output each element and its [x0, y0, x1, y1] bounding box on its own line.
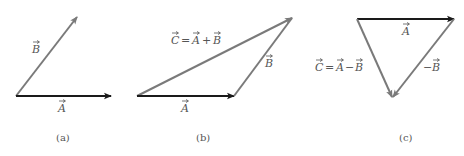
caption-c: (c)	[399, 132, 413, 143]
label-a-B: B	[31, 41, 40, 57]
svg-text:A: A	[180, 102, 189, 115]
svg-text:−: −	[345, 61, 354, 74]
label-a-A: A	[57, 100, 66, 116]
label-b-A: A	[180, 100, 189, 116]
panel-a: B A (a)	[16, 17, 111, 143]
svg-text:A: A	[335, 61, 344, 74]
svg-text:A: A	[57, 102, 66, 115]
diagram-svg: B A (a) C = A +	[0, 0, 464, 156]
svg-text:B: B	[264, 57, 273, 70]
svg-text:B: B	[354, 61, 363, 74]
vector-diagram: B A (a) C = A +	[0, 0, 464, 156]
label-b-B: B	[264, 55, 273, 71]
label-b-equation: C = A + B	[171, 32, 221, 48]
svg-text:+: +	[202, 34, 211, 47]
vector-c-C	[357, 19, 392, 97]
label-c-equation: C = A − B	[315, 59, 363, 75]
vector-b-B	[234, 18, 292, 96]
label-c-negB: − B	[423, 59, 440, 75]
label-c-A: A	[401, 23, 410, 39]
svg-text:A: A	[401, 25, 410, 38]
caption-a: (a)	[56, 132, 70, 143]
svg-text:A: A	[191, 34, 200, 47]
svg-text:=: =	[181, 34, 190, 47]
caption-b: (b)	[196, 132, 210, 143]
panel-c: A C = A − B − B (c)	[315, 19, 454, 143]
svg-text:C: C	[315, 61, 324, 74]
vector-a-B	[16, 17, 77, 96]
svg-text:B: B	[212, 34, 221, 47]
svg-text:B: B	[31, 43, 40, 56]
svg-text:C: C	[171, 34, 180, 47]
panel-b: C = A + B B A (b)	[137, 18, 292, 143]
svg-text:=: =	[325, 61, 334, 74]
svg-text:B: B	[431, 61, 440, 74]
svg-text:−: −	[423, 61, 432, 74]
